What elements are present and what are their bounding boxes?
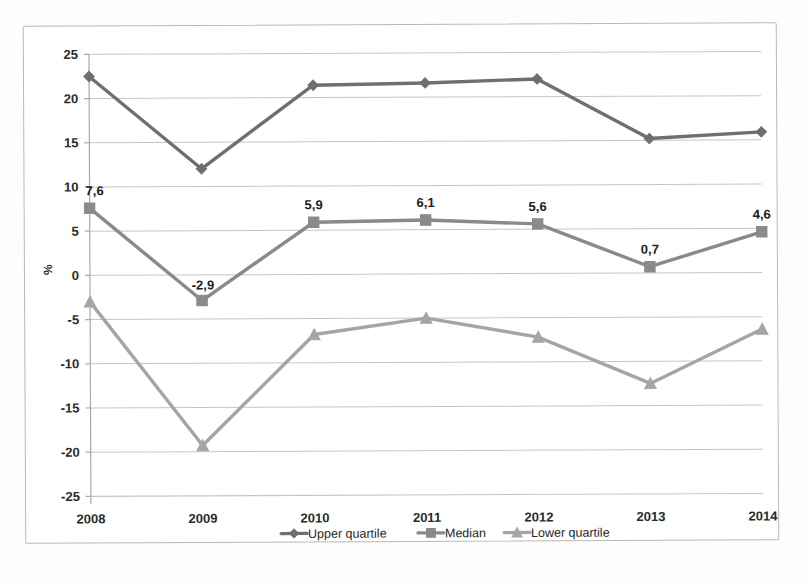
y-axis-tick-label: -10: [60, 356, 79, 371]
y-axis-tick-label: -15: [61, 401, 80, 416]
legend-item-label[interactable]: Lower quartile: [531, 526, 610, 540]
data-point-marker: [756, 323, 768, 334]
x-axis-tick-label: 2008: [77, 511, 106, 526]
data-point-marker: [84, 203, 94, 213]
data-point-marker: [308, 217, 318, 227]
y-axis-tick-label: 10: [64, 180, 79, 195]
legend-item-label[interactable]: Median: [445, 526, 486, 540]
data-label: 7,6: [86, 183, 104, 198]
data-label: 5,6: [529, 199, 547, 214]
x-axis-tick-label: 2012: [524, 509, 553, 524]
gridline: [91, 449, 763, 452]
y-axis-tick-label: 5: [71, 224, 78, 239]
gridline: [91, 405, 763, 408]
x-axis-tick-label: 2014: [748, 508, 778, 523]
y-axis-tick-label: 20: [64, 91, 79, 106]
legend-item-label[interactable]: Upper quartile: [308, 527, 387, 541]
data-point-marker: [757, 227, 767, 237]
data-point-marker: [532, 219, 542, 229]
x-axis-tick-label: 2011: [413, 510, 441, 525]
y-axis-tick-label: 25: [63, 47, 78, 62]
gridline: [89, 96, 761, 99]
x-axis-tick-label: 2010: [301, 510, 330, 525]
line-chart: 2520151050-5-10-15-20-25%200820092010201…: [0, 0, 808, 581]
data-label: 5,9: [305, 197, 323, 212]
data-point-marker: [645, 262, 655, 272]
data-label: 4,6: [753, 207, 771, 222]
data-point-marker: [290, 529, 299, 538]
y-axis-tick-label: -5: [68, 312, 80, 327]
data-point-marker: [756, 127, 766, 137]
data-point-marker: [420, 215, 430, 225]
gridline: [90, 272, 762, 275]
data-label: 6,1: [417, 195, 435, 210]
data-point-marker: [197, 295, 207, 305]
x-axis-tick-label: 2013: [636, 509, 665, 524]
y-axis-line: [89, 54, 91, 504]
gridline: [89, 140, 761, 143]
y-axis-tick-label: -25: [61, 489, 80, 504]
data-label: -2,9: [192, 277, 214, 292]
gridline: [90, 184, 762, 187]
data-label: 0,7: [641, 242, 659, 257]
data-point-marker: [84, 296, 96, 307]
x-axis-tick-label: 2009: [189, 511, 218, 526]
gridline: [89, 51, 761, 54]
y-axis-tick-label: -20: [61, 445, 80, 460]
y-axis-tick-label: 15: [64, 135, 79, 150]
data-point-marker: [427, 528, 436, 537]
data-point-marker: [420, 78, 430, 88]
gridline: [90, 361, 762, 364]
y-axis-title: %: [41, 264, 55, 275]
gridline: [90, 228, 762, 231]
chart-canvas: 2520151050-5-10-15-20-25%200820092010201…: [0, 0, 808, 581]
gridline: [91, 493, 763, 496]
y-axis-tick-label: 0: [72, 268, 79, 283]
